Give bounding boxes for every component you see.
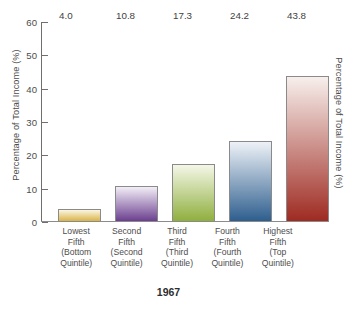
bar-slot: 43.8 — [286, 22, 329, 222]
y-tick-label: 30 — [26, 117, 37, 128]
x-axis-label-line: Fifth — [260, 237, 296, 248]
bar-slot: 4.0 — [58, 22, 101, 222]
x-axis-label-line: Fifth — [108, 237, 144, 248]
bar-slot: 17.3 — [172, 22, 215, 222]
x-axis-label-line: Quintile) — [209, 258, 245, 269]
bar-value-label: 10.8 — [116, 10, 135, 21]
x-axis-label: HighestFifth(TopQuintile) — [260, 226, 296, 268]
y-tick-label: 40 — [26, 83, 37, 94]
x-axis-label-line: Quintile) — [58, 258, 94, 269]
x-axis-label-line: Quintile) — [108, 258, 144, 269]
year-label: 1967 — [41, 286, 296, 298]
x-axis-label: LowestFifth(BottomQuintile) — [58, 226, 94, 268]
y-tick-mark — [42, 55, 48, 56]
x-axis-labels: LowestFifth(BottomQuintile)SecondFifth(S… — [58, 226, 296, 268]
x-axis-label-line: Highest — [260, 226, 296, 237]
x-axis-label-line: (Top — [260, 247, 296, 258]
x-axis-label-line: (Fourth — [209, 247, 245, 258]
x-axis-label-line: Fifth — [209, 237, 245, 248]
plot-area: 6050403020100 4.010.817.324.243.8 — [41, 22, 296, 222]
x-axis-label-line: Lowest — [58, 226, 94, 237]
y-tick-label: 60 — [26, 17, 37, 28]
bar-value-label: 24.2 — [230, 10, 249, 21]
y-tick-mark — [42, 189, 48, 190]
y-tick-mark — [42, 22, 48, 23]
bar[interactable]: 4.0 — [58, 209, 101, 222]
bar[interactable]: 43.8 — [286, 76, 329, 222]
x-axis-label-line: Quintile) — [260, 258, 296, 269]
x-axis-label-line: Fifth — [159, 237, 195, 248]
bar-value-label: 17.3 — [173, 10, 192, 21]
y-tick-mark — [42, 89, 48, 90]
y-tick: 50 — [41, 55, 49, 56]
y-tick-mark — [42, 122, 48, 123]
bar-value-label: 43.8 — [287, 10, 306, 21]
bar[interactable]: 17.3 — [172, 164, 215, 222]
x-axis-label-line: (Bottom — [58, 247, 94, 258]
y-tick: 20 — [41, 155, 49, 156]
y-tick-mark — [42, 222, 48, 223]
y-tick-label: 0 — [32, 217, 37, 228]
x-axis-label-line: Second — [108, 226, 144, 237]
x-axis-label: FourthFifth(FourthQuintile) — [209, 226, 245, 268]
x-axis-label-line: (Third — [159, 247, 195, 258]
y-tick-label: 10 — [26, 183, 37, 194]
x-axis-label-line: Quintile) — [159, 258, 195, 269]
y-axis-title-left: Percentage of Total Income (%) — [11, 15, 21, 215]
x-axis-label-line: Fifth — [58, 237, 94, 248]
x-axis-label-line: Fourth — [209, 226, 245, 237]
x-axis-label-line: (Second — [108, 247, 144, 258]
bar[interactable]: 24.2 — [229, 141, 272, 222]
y-tick: 40 — [41, 89, 49, 90]
bar-slot: 24.2 — [229, 22, 272, 222]
y-tick: 10 — [41, 189, 49, 190]
y-tick-mark — [42, 155, 48, 156]
bar-slot: 10.8 — [115, 22, 158, 222]
bar[interactable]: 10.8 — [115, 186, 158, 222]
y-tick: 0 — [41, 222, 49, 223]
y-axis-title-right: Percentage of Total Income (%) — [334, 23, 344, 223]
y-tick-label: 50 — [26, 50, 37, 61]
bar-value-label: 4.0 — [59, 10, 73, 21]
x-axis-label-line: Third — [159, 226, 195, 237]
y-tick: 60 — [41, 22, 49, 23]
y-tick-label: 20 — [26, 150, 37, 161]
bar-series: 4.010.817.324.243.8 — [58, 22, 296, 222]
y-tick: 30 — [41, 122, 49, 123]
x-axis-label: SecondFifth(SecondQuintile) — [108, 226, 144, 268]
x-axis-label: ThirdFifth(ThirdQuintile) — [159, 226, 195, 268]
